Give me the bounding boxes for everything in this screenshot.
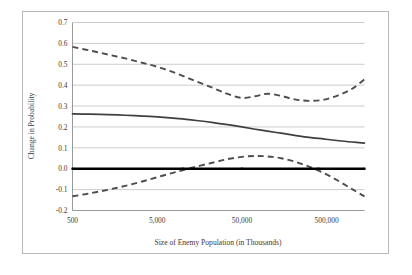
x-tick-label: 50,000 <box>232 216 253 225</box>
y-tick-label: 0.4 <box>58 81 68 90</box>
zero-line-marker <box>363 168 365 170</box>
zero-line-marker <box>71 168 73 170</box>
y-tick-label: -0.1 <box>56 185 68 194</box>
y-axis-title: Change in Probability <box>27 92 36 159</box>
y-tick-label: 0.0 <box>58 164 68 173</box>
x-tick-labels-group: 5005,00050,000500,000 <box>67 216 339 225</box>
series-line <box>73 114 365 143</box>
zero-line-marker <box>241 168 243 170</box>
data-series-group <box>73 47 365 196</box>
chart-canvas: 0.70.60.50.40.30.20.10.0-0.1-0.2 5005,00… <box>0 0 412 275</box>
y-tick-label: 0.2 <box>58 123 68 132</box>
x-tick-label: 5,000 <box>149 216 166 225</box>
series-line <box>73 156 365 196</box>
chart-figure: 0.70.60.50.40.30.20.10.0-0.1-0.2 5005,00… <box>0 0 412 275</box>
zero-line-marker <box>182 168 184 170</box>
y-tick-label: 0.1 <box>58 144 68 153</box>
gridlines-group <box>73 23 365 211</box>
y-tick-label: -0.2 <box>56 206 68 215</box>
y-tick-label: 0.7 <box>58 18 68 27</box>
x-axis-title: Size of Enemy Population (in Thousands) <box>154 238 282 247</box>
zero-line-marker <box>317 168 319 170</box>
x-tick-label: 500 <box>67 216 78 225</box>
x-tick-label: 500,000 <box>315 216 339 225</box>
y-tick-label: 0.3 <box>58 102 68 111</box>
y-tick-label: 0.5 <box>58 60 68 69</box>
y-tick-label: 0.6 <box>58 39 68 48</box>
axis-lines-group <box>73 23 365 211</box>
y-tick-labels-group: 0.70.60.50.40.30.20.10.0-0.1-0.2 <box>56 18 68 215</box>
series-line <box>73 47 365 101</box>
